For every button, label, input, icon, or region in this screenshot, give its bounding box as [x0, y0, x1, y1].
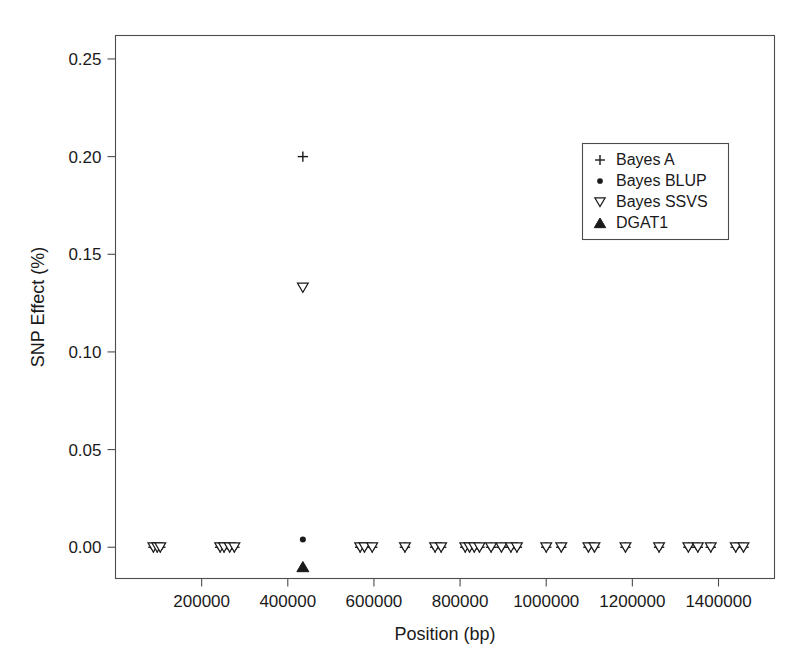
series-dgat1 — [297, 562, 309, 572]
x-tick-label: 1400000 — [685, 592, 751, 611]
x-tick-label: 200000 — [173, 592, 230, 611]
legend-label: DGAT1 — [616, 214, 668, 231]
x-tick-label: 800000 — [432, 592, 489, 611]
y-axis-ticks — [108, 59, 116, 547]
legend-label: Bayes SSVS — [616, 193, 708, 210]
y-tick-label: 0.10 — [68, 343, 101, 362]
marker-plus — [298, 151, 308, 161]
y-axis-title: SNP Effect (%) — [28, 247, 48, 367]
y-tick-label: 0.00 — [68, 538, 101, 557]
x-tick-label: 400000 — [259, 592, 316, 611]
plot-frame — [116, 36, 775, 579]
x-axis-title: Position (bp) — [394, 624, 495, 644]
x-tick-label: 1200000 — [599, 592, 665, 611]
x-axis-ticks — [202, 579, 719, 587]
legend: Bayes ABayes BLUPBayes SSVSDGAT1 — [583, 144, 729, 240]
marker-triangle-down — [297, 283, 308, 292]
legend-label: Bayes BLUP — [616, 172, 707, 189]
marker-dot — [597, 178, 603, 184]
legend-label: Bayes A — [616, 151, 675, 168]
x-tick-label: 1000000 — [513, 592, 579, 611]
marker-dot — [300, 536, 306, 542]
y-axis-tick-labels: 0.000.050.100.150.200.25 — [68, 50, 101, 557]
y-tick-label: 0.25 — [68, 50, 101, 69]
y-tick-label: 0.15 — [68, 245, 101, 264]
y-tick-label: 0.20 — [68, 148, 101, 167]
y-tick-label: 0.05 — [68, 441, 101, 460]
marker-triangle-up — [297, 562, 309, 572]
scatter-plot-figure: 2000004000006000008000001000000120000014… — [0, 0, 797, 671]
plot-canvas: 2000004000006000008000001000000120000014… — [0, 0, 797, 671]
x-tick-label: 600000 — [346, 592, 403, 611]
series-bayes-ssvs — [148, 283, 749, 552]
x-axis-tick-labels: 2000004000006000008000001000000120000014… — [173, 592, 751, 611]
